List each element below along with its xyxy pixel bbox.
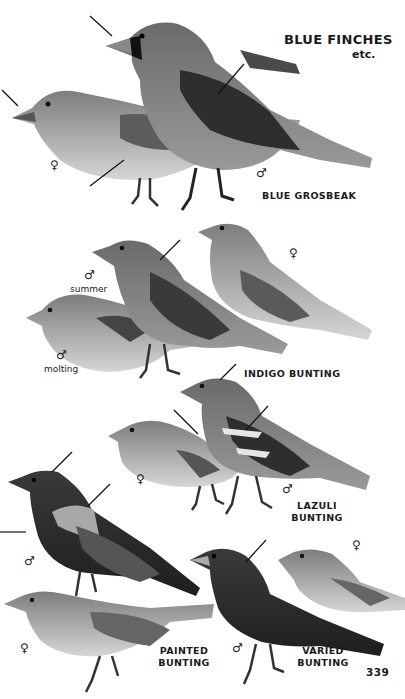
species-label-blue-grosbeak: BLUE GROSBEAK	[262, 190, 356, 202]
painted-bunting-female-illustration	[4, 591, 214, 692]
varied-bunting-female-illustration	[278, 549, 405, 612]
female-symbol: ♀	[136, 472, 145, 486]
male-symbol: ♂	[256, 166, 267, 180]
page-title: BLUE FINCHES	[284, 32, 393, 47]
page-subtitle: etc.	[352, 48, 375, 61]
species-label-varied-bunting: VARIED BUNTING	[296, 645, 350, 669]
species-label-painted-bunting: PAINTED BUNTING	[156, 645, 212, 669]
lazuli-bunting-male-illustration	[180, 378, 370, 514]
male-symbol: ♂	[84, 268, 95, 282]
summer-note: summer	[70, 284, 107, 294]
female-symbol: ♀	[50, 158, 59, 172]
species-label-indigo-bunting: INDIGO BUNTING	[244, 368, 340, 380]
male-symbol: ♂	[232, 641, 243, 655]
molting-note: molting	[44, 364, 78, 374]
page-number: 339	[366, 666, 389, 678]
species-label-lazuli-bunting: LAZULI BUNTING	[290, 500, 344, 524]
male-symbol: ♂	[56, 348, 67, 362]
female-symbol: ♀	[20, 641, 29, 655]
female-symbol: ♀	[289, 246, 298, 260]
male-symbol: ♂	[24, 554, 35, 568]
male-symbol: ♂	[282, 482, 293, 496]
female-symbol: ♀	[352, 538, 361, 552]
